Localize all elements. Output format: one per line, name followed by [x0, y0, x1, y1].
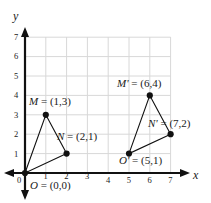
- coordinate-plane-figure: y x 7 6 5 4 3 2 1 0 1 2 3 4 5 6 7 M = (1…: [0, 0, 211, 203]
- point-O: [22, 170, 28, 176]
- x-axis-arrow-left: [4, 169, 14, 177]
- y-tick-2: 2: [14, 130, 18, 139]
- label-N-prime: N' = (7,2): [148, 118, 190, 129]
- y-tick-5: 5: [14, 72, 18, 81]
- x-tick-6: 6: [148, 176, 152, 185]
- x-axis-label: x: [193, 169, 198, 181]
- y-tick-7: 7: [14, 33, 18, 42]
- x-tick-5: 5: [127, 176, 131, 185]
- label-M-prime: M' = (6,4): [117, 78, 161, 89]
- y-tick-3: 3: [14, 111, 18, 120]
- y-axis-arrow-up: [21, 27, 29, 37]
- y-tick-1: 1: [14, 150, 18, 159]
- y-axis-arrow-down: [21, 190, 29, 200]
- x-tick-4: 4: [106, 176, 110, 185]
- x-tick-0: 0: [17, 176, 21, 185]
- x-axis-arrow-right: [180, 169, 190, 177]
- y-tick-4: 4: [14, 91, 18, 100]
- point-M-prime: [147, 92, 153, 98]
- label-O-prime: O' = (5,1): [119, 155, 162, 166]
- label-O: O = (0,0): [30, 180, 71, 191]
- x-tick-7: 7: [168, 176, 172, 185]
- point-N: [64, 151, 70, 157]
- x-tick-3: 3: [85, 172, 89, 181]
- label-M: M = (1,3): [29, 96, 71, 107]
- label-N: N = (2,1): [57, 131, 97, 142]
- y-tick-6: 6: [14, 52, 18, 61]
- point-N-prime: [168, 131, 174, 137]
- point-M: [43, 112, 49, 118]
- y-axis-label: y: [13, 10, 18, 22]
